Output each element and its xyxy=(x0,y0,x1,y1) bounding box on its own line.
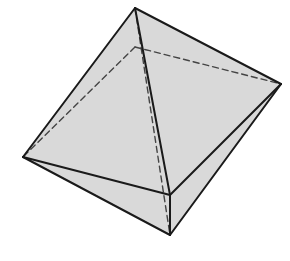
octahedron-diagram xyxy=(0,0,290,261)
